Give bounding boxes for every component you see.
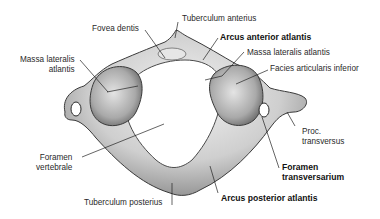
- label-foramen-vertebrale-line1: Foramen: [40, 153, 73, 162]
- label-facies-articularis-inferior: Facies articularis inferior: [270, 64, 359, 74]
- label-massa-lateralis-left-line1: Massa lateralis: [20, 55, 75, 64]
- label-foramen-vertebrale: Foramen vertebrale: [36, 153, 72, 172]
- label-massa-lateralis-left-line2: atlantis: [49, 65, 75, 74]
- label-proc-transversus: Proc. transversus: [302, 127, 344, 146]
- right-foramen-transversarium: [259, 103, 269, 117]
- label-foramen-transversarium: Foramen transversarium: [282, 163, 344, 182]
- label-foramen-vertebrale-line2: vertebrale: [36, 163, 72, 172]
- left-foramen-transversarium: [71, 102, 81, 116]
- atlas-vertebra-illustration: [0, 0, 380, 219]
- label-arcus-anterior-atlantis: Arcus anterior atlantis: [220, 33, 311, 43]
- label-foramen-transversarium-line2: transversarium: [282, 172, 344, 182]
- label-fovea-dentis: Fovea dentis: [92, 24, 139, 34]
- label-proc-transversus-line1: Proc.: [302, 127, 321, 136]
- label-massa-lateralis-left: Massa lateralis atlantis: [20, 55, 75, 74]
- label-tuberculum-posterius: Tuberculum posterius: [84, 198, 162, 208]
- label-foramen-transversarium-line1: Foramen: [282, 162, 318, 172]
- label-arcus-posterior-atlantis: Arcus posterior atlantis: [221, 194, 317, 204]
- label-proc-transversus-line2: transversus: [302, 137, 344, 146]
- label-massa-lateralis-right: Massa lateralis atlantis: [247, 48, 330, 58]
- label-tuberculum-anterius: Tuberculum anterius: [182, 14, 256, 24]
